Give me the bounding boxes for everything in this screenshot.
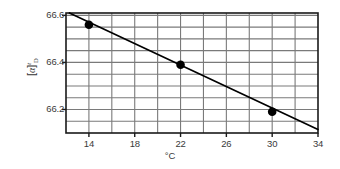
alpha-symbol: α (26, 68, 37, 73)
y-axis-title-wrapper: [α]tD (10, 46, 54, 90)
plot-area-background (66, 13, 318, 133)
x-axis-tick-label: 34 (305, 138, 331, 149)
y-axis-tick-label: 66.6 (18, 9, 64, 20)
chart-figure: [α]tD °C 66.266.466.6 141822263034 (0, 0, 340, 169)
x-axis-tick-label: 14 (76, 138, 102, 149)
y-axis-tick-label: 66.4 (18, 56, 64, 67)
x-axis-tick-label: 26 (213, 138, 239, 149)
x-axis-tick-label: 22 (168, 138, 194, 149)
y-axis-tick-label: 66.2 (18, 103, 64, 114)
x-axis-tick-label: 30 (259, 138, 285, 149)
data-point (176, 60, 185, 69)
data-point (268, 108, 277, 117)
data-point (85, 20, 94, 29)
x-axis-tick-label: 18 (122, 138, 148, 149)
x-axis-title: °C (0, 150, 340, 161)
